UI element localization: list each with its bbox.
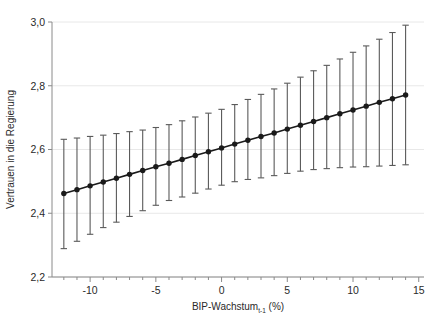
- data-point-marker: [114, 175, 119, 180]
- data-point-marker: [403, 92, 408, 97]
- y-tick-label: 2,2: [30, 271, 45, 283]
- data-point-marker: [74, 187, 79, 192]
- data-point-marker: [193, 153, 198, 158]
- data-point-marker: [101, 179, 106, 184]
- x-tick-label: 5: [284, 284, 290, 296]
- y-tick-label: 2,4: [30, 207, 45, 219]
- chart-figure: 2,22,42,62,83,0-10-5051015Vertrauen in d…: [0, 0, 429, 332]
- x-tick-label: 0: [219, 284, 225, 296]
- data-point-marker: [87, 183, 92, 188]
- data-point-marker: [271, 130, 276, 135]
- data-point-marker: [61, 191, 66, 196]
- data-point-marker: [363, 103, 368, 108]
- data-point-marker: [285, 126, 290, 131]
- x-tick-label: 15: [413, 284, 425, 296]
- x-axis-title: BIP-Wachstumt-1 (%): [192, 301, 284, 314]
- data-point-marker: [350, 107, 355, 112]
- data-point-marker: [179, 157, 184, 162]
- data-point-marker: [298, 123, 303, 128]
- y-tick-label: 2,6: [30, 143, 45, 155]
- data-point-marker: [232, 141, 237, 146]
- data-point-marker: [337, 111, 342, 116]
- data-point-marker: [377, 100, 382, 105]
- data-point-marker: [311, 119, 316, 124]
- data-point-marker: [245, 138, 250, 143]
- x-tick-label: 10: [347, 284, 359, 296]
- data-point-marker: [324, 115, 329, 120]
- y-axis-title: Vertrauen in die Regierung: [5, 90, 16, 209]
- data-point-marker: [153, 164, 158, 169]
- data-point-marker: [390, 96, 395, 101]
- data-point-marker: [258, 134, 263, 139]
- data-point-marker: [127, 172, 132, 177]
- data-point-marker: [219, 145, 224, 150]
- x-tick-label: -5: [151, 284, 160, 296]
- data-point-marker: [206, 149, 211, 154]
- x-axis-title-main: BIP-Wachstum: [192, 301, 258, 312]
- x-tick-label: -10: [83, 284, 98, 296]
- x-axis-title-unit: (%): [266, 301, 284, 312]
- chart-canvas: 2,22,42,62,83,0-10-5051015Vertrauen in d…: [0, 0, 429, 332]
- y-tick-label: 3,0: [30, 16, 45, 28]
- data-point-marker: [166, 161, 171, 166]
- y-tick-label: 2,8: [30, 80, 45, 92]
- data-point-marker: [140, 168, 145, 173]
